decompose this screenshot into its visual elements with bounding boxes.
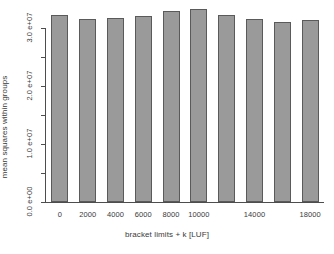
bar	[218, 15, 235, 202]
bar	[51, 15, 68, 202]
bar	[190, 9, 207, 202]
x-axis-line	[45, 202, 324, 203]
x-axis-tick-label: 18000	[299, 210, 320, 219]
x-axis-tick-label: 0	[58, 210, 62, 219]
x-axis-tick-label: 4000	[107, 210, 124, 219]
x-axis-tick-label: 8000	[163, 210, 180, 219]
bar	[302, 20, 319, 202]
bar	[79, 19, 96, 202]
y-axis-tick	[41, 202, 46, 203]
chart-title	[0, 0, 334, 6]
y-axis-tick-label: 0.0 e+00	[25, 179, 34, 225]
x-axis-tick-label: 2000	[79, 210, 96, 219]
bar	[107, 18, 124, 202]
bar	[135, 16, 152, 202]
x-axis-tick-label: 6000	[135, 210, 152, 219]
y-axis-tick-label: 3.0 e+07	[25, 5, 34, 51]
x-axis-tick-label: 10000	[188, 210, 209, 219]
bar	[246, 19, 263, 202]
x-axis-tick-label: 14000	[244, 210, 265, 219]
bar	[163, 11, 180, 202]
x-axis-title: bracket limits + k [LUF]	[0, 230, 334, 239]
bar-chart: mean squares within groups 0.0 e+001.0 e…	[0, 0, 334, 254]
bars-layer	[46, 28, 324, 202]
y-axis-tick-label: 2.0 e+07	[25, 63, 34, 109]
bar	[274, 22, 291, 202]
y-axis-title: mean squares within groups	[0, 0, 16, 254]
y-axis-tick-label: 1.0 e+07	[25, 121, 34, 167]
